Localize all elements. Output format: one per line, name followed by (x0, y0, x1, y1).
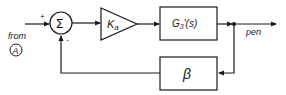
output-label: pen (245, 27, 261, 37)
feedback-to-sum-line (61, 36, 160, 73)
plant-block: G3'(s) (160, 7, 217, 40)
gain-block: Ka (101, 8, 137, 40)
gain-label: Ka (107, 18, 119, 32)
block-diagram: + from A Σ - Ka G3'(s) pen β (0, 0, 286, 95)
sigma-symbol: Σ (56, 16, 64, 31)
feedback-label: β (182, 66, 191, 82)
plant-label: G3'(s) (172, 18, 197, 30)
feedback-return-line (219, 24, 234, 73)
source-a-label: A (12, 46, 19, 56)
feedback-block: β (160, 57, 217, 90)
from-label: from (8, 31, 27, 41)
minus-sign: - (66, 35, 69, 45)
summing-junction: Σ (50, 12, 72, 34)
plus-sign: + (40, 12, 45, 21)
